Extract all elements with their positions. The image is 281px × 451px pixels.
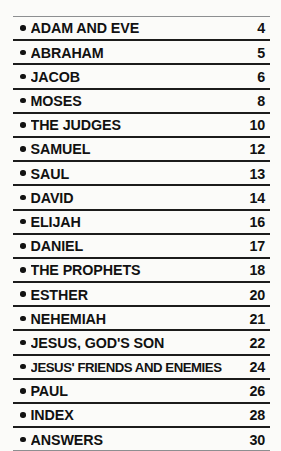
toc-entry-title: ESTHER — [31, 288, 246, 302]
list-item[interactable]: JESUS' FRIENDS AND ENEMIES 24 — [13, 356, 270, 380]
toc-entry-title: ABRAHAM — [31, 46, 246, 60]
list-item[interactable]: ESTHER 20 — [13, 283, 270, 307]
toc-entry-title: DAVID — [31, 191, 246, 205]
toc-entry-title: MOSES — [31, 94, 246, 108]
toc-entry-page-number: 18 — [245, 263, 270, 277]
toc-entry-title: JESUS' FRIENDS AND ENEMIES — [31, 361, 246, 374]
bullet-dot-icon — [20, 316, 26, 322]
toc-entry-title: ELIJAH — [31, 215, 246, 229]
list-item[interactable]: THE JUDGES 10 — [13, 114, 270, 138]
bullet-dot-icon — [20, 98, 26, 104]
toc-entry-title: SAUL — [31, 167, 246, 181]
bullet-dot-icon — [20, 74, 26, 80]
toc-entry-page-number: 16 — [245, 215, 270, 229]
bullet-dot-icon — [20, 340, 26, 346]
bullet-dot-icon — [20, 267, 26, 273]
bullet-dot-icon — [20, 195, 26, 201]
bullet-dot-icon — [20, 364, 26, 370]
list-item[interactable]: JACOB 6 — [13, 65, 270, 89]
list-item[interactable]: INDEX 28 — [13, 404, 270, 428]
toc-entry-page-number: 24 — [245, 360, 270, 374]
toc-entry-page-number: 17 — [245, 239, 270, 253]
toc-entry-page-number: 4 — [245, 21, 270, 35]
bullet-dot-icon — [20, 170, 26, 176]
toc-entry-page-number: 26 — [245, 384, 270, 398]
toc-entry-page-number: 5 — [245, 46, 270, 60]
list-item[interactable]: PAUL 26 — [13, 380, 270, 404]
list-item[interactable]: THE PROPHETS 18 — [13, 259, 270, 283]
bullet-dot-icon — [20, 25, 26, 31]
toc-entry-title: ANSWERS — [31, 433, 246, 447]
bullet-dot-icon — [20, 146, 26, 152]
list-item[interactable]: NEHEMIAH 21 — [13, 307, 270, 331]
toc-entry-page-number: 28 — [245, 408, 270, 422]
toc-entry-page-number: 13 — [245, 167, 270, 181]
toc-entry-page-number: 30 — [245, 433, 270, 447]
list-item[interactable]: ABRAHAM 5 — [13, 41, 270, 65]
toc-list: ADAM AND EVE 4 ABRAHAM 5 JACOB 6 MOSES 8… — [13, 16, 270, 451]
toc-entry-title: DANIEL — [31, 239, 246, 253]
list-item[interactable]: ELIJAH 16 — [13, 211, 270, 235]
toc-entry-page-number: 21 — [245, 312, 270, 326]
toc-entry-title: THE PROPHETS — [31, 263, 246, 277]
toc-entry-page-number: 12 — [245, 142, 270, 156]
toc-entry-page-number: 8 — [245, 94, 270, 108]
toc-entry-title: JESUS, GOD'S SON — [31, 336, 246, 350]
bullet-dot-icon — [20, 388, 26, 394]
list-item[interactable]: MOSES 8 — [13, 90, 270, 114]
toc-entry-title: SAMUEL — [31, 142, 246, 156]
bullet-dot-icon — [20, 412, 26, 418]
toc-entry-page-number: 10 — [245, 118, 270, 132]
bullet-dot-icon — [20, 291, 26, 297]
toc-entry-page-number: 22 — [245, 336, 270, 350]
toc-entry-page-number: 20 — [245, 288, 270, 302]
list-item[interactable]: ANSWERS 30 — [13, 428, 270, 451]
toc-entry-title: PAUL — [31, 384, 246, 398]
toc-entry-title: NEHEMIAH — [31, 312, 246, 326]
bullet-dot-icon — [20, 437, 26, 443]
list-item[interactable]: ADAM AND EVE 4 — [13, 17, 270, 41]
bullet-dot-icon — [20, 50, 26, 56]
list-item[interactable]: DAVID 14 — [13, 186, 270, 210]
toc-entry-title: ADAM AND EVE — [31, 21, 246, 35]
toc-entry-title: THE JUDGES — [31, 118, 246, 132]
list-item[interactable]: SAMUEL 12 — [13, 138, 270, 162]
toc-entry-page-number: 6 — [245, 70, 270, 84]
bullet-dot-icon — [20, 122, 26, 128]
toc-entry-title: INDEX — [31, 408, 246, 422]
bullet-dot-icon — [20, 219, 26, 225]
list-item[interactable]: DANIEL 17 — [13, 235, 270, 259]
toc-entry-title: JACOB — [31, 70, 246, 84]
toc-entry-page-number: 14 — [245, 191, 270, 205]
list-item[interactable]: SAUL 13 — [13, 162, 270, 186]
list-item[interactable]: JESUS, GOD'S SON 22 — [13, 331, 270, 355]
bullet-dot-icon — [20, 243, 26, 249]
